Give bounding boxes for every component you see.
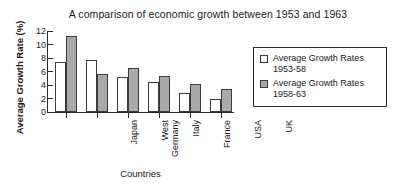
bar <box>117 77 128 112</box>
y-axis-title: Average Growth Rate (%) <box>14 13 25 143</box>
x-tick-mark <box>66 113 67 118</box>
bar <box>97 74 108 112</box>
y-tick-label: 6 <box>41 67 46 77</box>
x-tick-label-line: USA <box>253 120 263 139</box>
legend-item: Average Growth Rates1953-58 <box>260 53 380 75</box>
x-tick-label-line: Japan <box>129 120 139 145</box>
legend-label: Average Growth Rates1953-58 <box>273 53 364 75</box>
y-tick-label: 4 <box>41 80 46 90</box>
y-tick-label: 2 <box>41 94 46 104</box>
y-tick-mark <box>48 44 53 45</box>
bar <box>128 68 139 112</box>
legend-label-line: Average Growth Rates <box>273 53 364 63</box>
y-tick-12: 12 <box>25 26 53 36</box>
x-tick-label: UK <box>284 120 294 180</box>
plot-area: 024681012 <box>47 31 234 113</box>
legend-swatch-icon <box>260 55 268 63</box>
bar <box>55 62 66 112</box>
bar-chart: A comparison of economic growth between … <box>0 0 397 187</box>
bar-group <box>179 31 201 112</box>
x-tick-label: USA <box>253 120 263 180</box>
bar <box>66 36 77 112</box>
legend-swatch-icon <box>260 80 268 88</box>
x-tick-label-line: France <box>222 120 232 148</box>
bar <box>159 76 170 112</box>
bar-group <box>55 31 77 112</box>
x-axis-title: Countries <box>47 168 234 179</box>
x-axis-line <box>47 112 234 113</box>
x-tick-mark <box>159 113 160 118</box>
y-tick-mark <box>48 85 53 86</box>
y-tick-mark <box>48 31 53 32</box>
bar-group <box>210 31 232 112</box>
x-tick-label-line: Italy <box>191 120 201 137</box>
legend-label-line: Average Growth Rates <box>273 78 364 88</box>
legend-label-line: 1958-63 <box>273 89 364 100</box>
bar <box>190 84 201 112</box>
chart-title: A comparison of economic growth between … <box>58 8 358 20</box>
y-tick-label: 8 <box>41 53 46 63</box>
legend-label: Average Growth Rates1958-63 <box>273 78 364 100</box>
legend: Average Growth Rates1953-58Average Growt… <box>253 47 387 107</box>
x-tick-label-line: West <box>160 120 170 140</box>
bar <box>148 82 159 112</box>
y-tick-0: 0 <box>25 107 53 117</box>
bar <box>179 93 190 112</box>
bar <box>210 99 221 112</box>
x-tick-mark <box>190 113 191 118</box>
y-tick-8: 8 <box>25 53 53 63</box>
bar-group <box>148 31 170 112</box>
y-tick-mark <box>48 58 53 59</box>
y-tick-mark <box>48 98 53 99</box>
y-tick-label: 0 <box>41 107 46 117</box>
bar-group <box>86 31 108 112</box>
x-tick-label-line: UK <box>284 120 294 133</box>
bar <box>86 60 97 112</box>
y-tick-mark <box>48 112 53 113</box>
y-tick-mark <box>48 71 53 72</box>
y-tick-label: 12 <box>36 26 46 36</box>
legend-label-line: 1953-58 <box>273 64 364 75</box>
y-tick-2: 2 <box>25 94 53 104</box>
x-tick-mark <box>97 113 98 118</box>
bar <box>221 89 232 112</box>
legend-item: Average Growth Rates1958-63 <box>260 78 380 100</box>
y-tick-10: 10 <box>25 40 53 50</box>
y-tick-6: 6 <box>25 67 53 77</box>
y-tick-4: 4 <box>25 80 53 90</box>
y-tick-label: 10 <box>36 40 46 50</box>
x-tick-mark <box>221 113 222 118</box>
x-tick-mark <box>128 113 129 118</box>
bar-group <box>117 31 139 112</box>
